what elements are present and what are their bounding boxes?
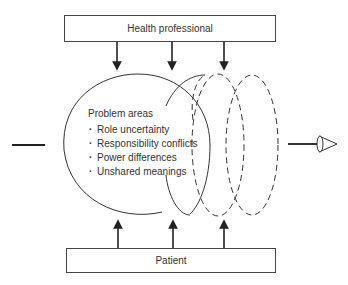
spiral-dashed-loop-2 [226, 75, 278, 215]
problem-areas-title: Problem areas [88, 107, 198, 121]
patient-box: Patient [66, 248, 276, 273]
problem-item: Unshared meanings [88, 165, 198, 179]
patient-label: Patient [155, 255, 186, 266]
problem-item: Responsibility conflicts [88, 137, 198, 151]
health-professional-box: Health professional [64, 15, 276, 42]
problem-item: Role uncertainty [88, 123, 198, 137]
spiral-dashed-loop-1 [192, 74, 244, 216]
health-professional-label: Health professional [127, 23, 213, 34]
problem-areas-list: Problem areas Role uncertainty Responsib… [88, 107, 198, 179]
problem-item: Power differences [88, 151, 198, 165]
output-cone-arrow [288, 136, 337, 152]
